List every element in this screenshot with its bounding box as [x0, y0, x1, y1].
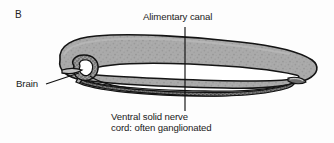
label-ventral-nerve-cord: Ventral solid nerve cord: often ganglion… — [111, 112, 212, 133]
nerve-cord-line-2: cord: often ganglionated — [111, 123, 212, 134]
label-brain: Brain — [16, 79, 38, 90]
panel-letter: B — [15, 9, 22, 20]
label-alimentary-canal: Alimentary canal — [143, 12, 212, 23]
figure-container: B Alimentary canal Brain Ventral solid n… — [0, 0, 334, 143]
